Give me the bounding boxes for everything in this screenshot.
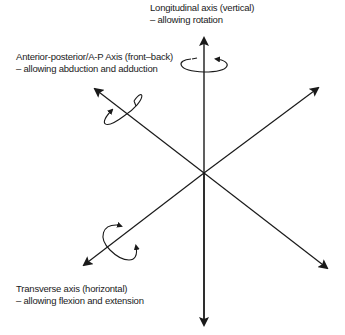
anterior-posterior-axis-label: Anterior-posterior/A-P Axis (front–back)…: [16, 51, 173, 75]
axis-movement: – allowing abduction and adduction: [16, 63, 173, 75]
axis-name: Transverse axis (horizontal): [16, 283, 144, 295]
transverse-axis: [84, 88, 318, 265]
longitudinal-axis-label: Longitudinal axis (vertical) – allowing …: [150, 2, 254, 26]
rotation-arrow-icon: [103, 225, 137, 260]
rotation-arrow-icon: [104, 95, 141, 125]
axis-movement: – allowing rotation: [150, 14, 254, 26]
axis-movement: – allowing flexion and extension: [16, 295, 144, 307]
axes-diagram: Longitudinal axis (vertical) – allowing …: [0, 0, 345, 335]
anterior-posterior-axis: [95, 89, 327, 268]
axis-name: Anterior-posterior/A-P Axis (front–back): [16, 51, 173, 63]
transverse-axis-label: Transverse axis (horizontal) – allowing …: [16, 283, 144, 307]
axis-name: Longitudinal axis (vertical): [150, 2, 254, 14]
